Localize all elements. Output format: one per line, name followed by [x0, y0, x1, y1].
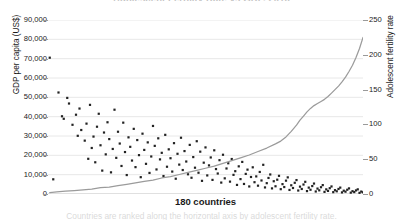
y-axis-right-title: Adolescent fertility rate — [386, 0, 395, 117]
y-axis-left-tickmark-8 — [43, 39, 48, 40]
y-axis-right-tick-3: 150 — [369, 86, 382, 94]
y-axis-right-tick-1: 50 — [369, 155, 377, 163]
y-axis-right-tickmark-4 — [363, 55, 368, 56]
y-axis-right-tick-4: 200 — [369, 51, 382, 59]
y-axis-right-tickmark-2 — [363, 124, 368, 125]
line-series-fertility — [50, 37, 363, 192]
y-axis-left-tickmark-7 — [43, 59, 48, 60]
plot-area — [48, 20, 363, 194]
y-axis-right-tick-2: 100 — [369, 120, 382, 128]
y-axis-left-tickmark-4 — [43, 117, 48, 118]
x-axis-title: 180 countries — [48, 196, 363, 207]
chart-title: Adolescent Fertility Rate vs GDP, 2016 — [0, 0, 403, 1]
y-axis-left-tickmark-0 — [43, 194, 48, 195]
scatter-series-gdp — [49, 57, 363, 194]
y-axis-left-tickmark-3 — [43, 136, 48, 137]
plot-canvas — [48, 20, 363, 194]
y-axis-right-tick-0: 0 — [369, 190, 373, 198]
y-axis-left-tickmark-5 — [43, 97, 48, 98]
y-axis-left-tickmark-6 — [43, 78, 48, 79]
y-axis-right-tick-5: 250 — [369, 16, 382, 24]
y-axis-left-tickmark-2 — [43, 155, 48, 156]
y-axis-right-tickmark-5 — [363, 20, 368, 21]
y-axis-right-tickmark-1 — [363, 159, 368, 160]
y-axis-left-title: GDP per capita (US$) — [12, 0, 21, 115]
y-axis-right-tickmark-0 — [363, 194, 368, 195]
chart-figure: Adolescent Fertility Rate vs GDP, 2016 G… — [0, 0, 403, 220]
y-axis-left-tickmark-1 — [43, 175, 48, 176]
figure-caption: Countries are ranked along the horizonta… — [0, 211, 403, 220]
gridlines — [48, 20, 363, 175]
y-axis-left-tickmark-9 — [43, 20, 48, 21]
y-axis-right-tickmark-3 — [363, 90, 368, 91]
